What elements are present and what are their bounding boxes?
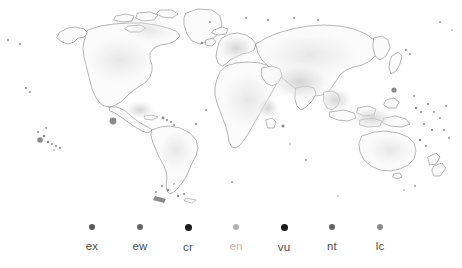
world-map-panel (0, 0, 462, 210)
legend-dot-lc (377, 224, 383, 230)
world-map-svg (0, 0, 462, 210)
legend-label-ex: ex (68, 240, 116, 252)
legend-dot-ew (137, 224, 143, 230)
legend-label-cr: cr (164, 241, 212, 253)
legend-item-nt[interactable]: nt (308, 210, 356, 252)
legend-item-ex[interactable]: ex (68, 210, 116, 252)
legend: ex ew cr en vu nt lc (0, 210, 462, 268)
legend-item-cr[interactable]: cr (164, 210, 212, 253)
legend-dot-en (233, 224, 239, 230)
legend-label-lc: lc (356, 240, 404, 252)
legend-dot-nt (329, 224, 335, 230)
legend-item-vu[interactable]: vu (260, 210, 308, 253)
legend-item-ew[interactable]: ew (116, 210, 164, 252)
legend-label-nt: nt (308, 240, 356, 252)
legend-dot-vu (281, 224, 288, 231)
legend-label-vu: vu (260, 241, 308, 253)
legend-label-ew: ew (116, 240, 164, 252)
figure-root: ex ew cr en vu nt lc (0, 0, 462, 268)
legend-dot-ex (89, 224, 95, 230)
legend-item-lc[interactable]: lc (356, 210, 404, 252)
legend-item-en[interactable]: en (212, 210, 260, 252)
legend-label-en: en (212, 240, 260, 252)
legend-dot-cr (185, 224, 192, 231)
